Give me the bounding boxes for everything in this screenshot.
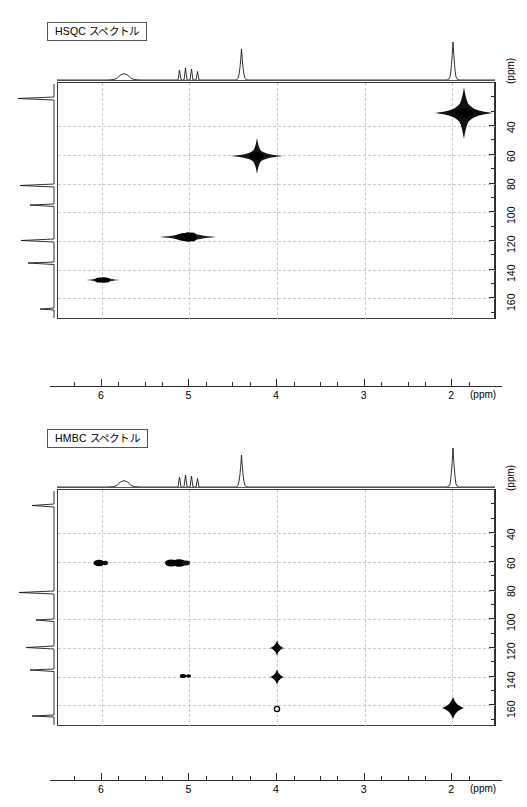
hsqc-y-axis-label-160: 160 — [505, 293, 517, 311]
hsqc-y-tick-minor-8 — [491, 283, 496, 284]
hsqc-cross-peak-4-glyph — [86, 273, 120, 287]
hmbc-y-tick-minor-5 — [491, 604, 496, 605]
hmbc-x-tick-3 — [364, 773, 365, 781]
hsqc-title-box: HSQC スペクトル — [47, 22, 147, 41]
hsqc-x-tick-2 — [451, 379, 452, 387]
hmbc-y-tick-minor-7 — [491, 661, 496, 662]
hsqc-y-tick-minor-7 — [491, 254, 496, 255]
hmbc-cross-peak-5 — [177, 671, 197, 681]
hsqc-y-tick-60 — [489, 154, 496, 155]
hsqc-y-tick-160 — [489, 297, 496, 298]
hmbc-proton-trace-svg — [57, 447, 495, 489]
hmbc-y-axis-unit: (ppm) — [505, 465, 516, 491]
hmbc-gridline-v-3 — [365, 490, 366, 727]
hmbc-cross-peak-1 — [90, 557, 114, 569]
hsqc-cross-peak-1-glyph — [434, 83, 494, 143]
hsqc-y-tick-minor-9 — [491, 312, 496, 313]
hmbc-x-tick-minor-11 — [381, 776, 382, 781]
hsqc-x-tick-minor-12 — [408, 382, 409, 387]
hsqc-proton-trace-svg — [57, 40, 495, 82]
hmbc-title-label: HMBC スペクトル — [55, 432, 140, 444]
hsqc-y-axis-label-40: 40 — [505, 121, 517, 133]
hmbc-y-tick-80 — [489, 590, 496, 591]
hsqc-x-tick-minor-10 — [337, 382, 338, 387]
hmbc-x-tick-minor-8 — [294, 776, 295, 781]
hsqc-title-label: HSQC スペクトル — [55, 25, 139, 37]
hmbc-x-tick-minor-10 — [337, 776, 338, 781]
hmbc-cross-peak-4 — [266, 666, 288, 688]
hsqc-cross-peak-2-glyph — [231, 136, 283, 176]
hmbc-x-tick-minor-13 — [425, 776, 426, 781]
hmbc-gridline-h-60 — [58, 562, 496, 563]
hsqc-y-axis-label-120: 120 — [505, 235, 517, 253]
hsqc-cross-peak-1 — [434, 83, 494, 143]
hsqc-gridline-h-160 — [58, 298, 496, 299]
hsqc-x-axis-label-3: 3 — [349, 389, 379, 401]
hmbc-x-tick-minor-12 — [408, 776, 409, 781]
hmbc-y-axis-label-40: 40 — [505, 528, 517, 540]
hsqc-x-tick-minor-6 — [232, 382, 233, 387]
hmbc-gridline-h-80 — [58, 591, 496, 592]
hmbc-cross-peak-7 — [438, 693, 468, 723]
hsqc-x-tick-minor-11 — [381, 382, 382, 387]
hsqc-y-axis-unit: (ppm) — [505, 58, 516, 84]
hsqc-y-tick-minor-1 — [491, 96, 496, 97]
hmbc-x-tick-minor-5 — [206, 776, 207, 781]
hmbc-cross-peak-5-glyph — [177, 671, 197, 681]
hmbc-y-tick-minor-6 — [491, 633, 496, 634]
hmbc-y-tick-140 — [489, 676, 496, 677]
hmbc-gridline-h-40 — [58, 533, 496, 534]
hsqc-x-axis-label-6: 6 — [86, 389, 116, 401]
hmbc-x-axis-label-5: 5 — [173, 783, 203, 795]
hmbc-x-axis-label-2: 2 — [436, 783, 466, 795]
hsqc-y-tick-40 — [489, 125, 496, 126]
hmbc-x-tick-2 — [451, 773, 452, 781]
hsqc-y-tick-minor-6 — [491, 226, 496, 227]
hsqc-gridline-v-4 — [277, 83, 278, 320]
hsqc-y-tick-80 — [489, 183, 496, 184]
hmbc-cross-peak-2-glyph — [158, 556, 198, 570]
hsqc-x-tick-minor-5 — [206, 382, 207, 387]
hmbc-x-tick-minor-7 — [250, 776, 251, 781]
hsqc-x-tick-minor-8 — [294, 382, 295, 387]
hmbc-x-tick-minor-3 — [145, 776, 146, 781]
hsqc-y-tick-100 — [489, 211, 496, 212]
hmbc-cross-peak-7-glyph — [438, 693, 468, 723]
hsqc-carbon-trace-svg — [16, 84, 56, 318]
panel-hmbc: HMBC スペクトル — [0, 407, 527, 807]
hmbc-x-axis-label-3: 3 — [349, 783, 379, 795]
hsqc-x-axis-label-2: 2 — [436, 389, 466, 401]
hsqc-y-tick-minor-4 — [491, 168, 496, 169]
hsqc-x-tick-minor-4 — [162, 382, 163, 387]
hsqc-carbon-projection — [16, 84, 56, 318]
hmbc-y-axis-label-100: 100 — [505, 613, 517, 631]
hsqc-y-tick-minor-2 — [491, 111, 496, 112]
hmbc-carbon-trace-svg — [16, 491, 56, 725]
hsqc-x-tick-minor-13 — [425, 382, 426, 387]
hsqc-y-tick-minor-5 — [491, 197, 496, 198]
hsqc-y-tick-minor-3 — [491, 139, 496, 140]
hmbc-x-tick-minor-6 — [232, 776, 233, 781]
hmbc-x-axis-unit: (ppm) — [470, 783, 496, 794]
hmbc-y-tick-minor-3 — [491, 546, 496, 547]
hmbc-x-tick-5 — [188, 773, 189, 781]
hmbc-y-axis-label-160: 160 — [505, 700, 517, 718]
hsqc-x-tick-minor-3 — [145, 382, 146, 387]
hsqc-cross-peak-4 — [86, 273, 120, 287]
hmbc-y-tick-minor-8 — [491, 690, 496, 691]
hsqc-x-tick-minor-2 — [118, 382, 119, 387]
hmbc-y-axis-label-80: 80 — [505, 585, 517, 597]
hmbc-cross-peak-3 — [266, 637, 288, 659]
hmbc-x-tick-4 — [276, 773, 277, 781]
hmbc-cross-peak-2 — [158, 556, 198, 570]
hmbc-y-tick-160 — [489, 704, 496, 705]
hsqc-x-axis-label-5: 5 — [173, 389, 203, 401]
hmbc-cross-peak-3-glyph — [266, 637, 288, 659]
hmbc-y-tick-minor-9 — [491, 719, 496, 720]
hsqc-gridline-v-3 — [365, 83, 366, 320]
hmbc-y-axis-label-60: 60 — [505, 557, 517, 569]
hmbc-x-tick-minor-9 — [320, 776, 321, 781]
hmbc-x-tick-minor-1 — [74, 776, 75, 781]
hsqc-x-tick-minor-9 — [320, 382, 321, 387]
hsqc-y-axis-label-140: 140 — [505, 264, 517, 282]
